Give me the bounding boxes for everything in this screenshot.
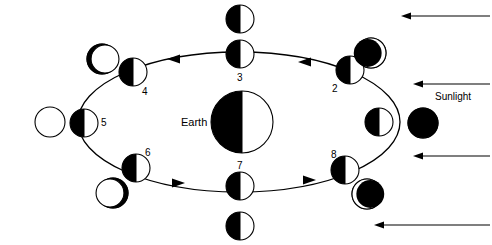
phase-view-last-quarter-dark-half (226, 5, 240, 33)
sunlight-ray-arrowhead-3 (413, 152, 423, 159)
moon-position-5-dark-half (70, 109, 84, 137)
phase-view-full-moon-disc (35, 107, 65, 137)
phase-view-waxing-crescent (352, 179, 384, 209)
moon-position-label-8: 8 (331, 150, 337, 160)
sunlight-ray-arrowhead-4 (374, 221, 384, 228)
orbit-direction-arrow-1 (167, 54, 180, 63)
moon-position-label-7: 7 (237, 161, 243, 171)
phase-view-new-moon (408, 108, 438, 138)
sunlight-ray-2 (413, 80, 490, 87)
moon-position-8-dark-half (331, 156, 345, 184)
moon-position-label-2: 2 (332, 84, 338, 94)
moon-position-label-1: 1 (366, 116, 372, 126)
phase-view-waning-crescent-dark-body (354, 39, 382, 67)
moon-position-3-dark-half (226, 40, 240, 68)
moon-position-3 (226, 40, 254, 68)
sunlight-ray-3 (413, 152, 490, 159)
orbit-direction-arrow-3 (172, 178, 185, 187)
earth-body-dark-half (211, 91, 242, 153)
phase-view-waning-gibbous-light-body (96, 179, 124, 207)
orbit-direction-arrow-2 (298, 57, 311, 66)
phase-view-waxing-gibbous-light-body (91, 45, 119, 73)
phase-view-full-moon (35, 107, 65, 137)
earth-text-label: Earth (181, 117, 207, 128)
phase-view-first-quarter-dark-half (226, 212, 240, 240)
moon-position-6-dark-half (122, 154, 136, 182)
moon-position-label-3: 3 (237, 73, 243, 83)
moon-position-8 (331, 156, 359, 184)
moon-position-label-6: 6 (145, 148, 151, 158)
orbit-direction-arrow-4 (303, 175, 316, 184)
moon-position-4-dark-half (119, 58, 133, 86)
sunlight-ray-arrowhead-2 (413, 80, 423, 87)
phase-view-last-quarter (226, 5, 254, 33)
sunlight-ray-1 (401, 12, 490, 19)
sunlight-ray-arrowhead-1 (401, 12, 411, 19)
sunlight-ray-4 (374, 221, 490, 228)
sunlight-text-label: Sunlight (435, 92, 471, 102)
diagram-canvas (0, 0, 492, 245)
moon-position-2-dark-half (336, 56, 350, 84)
phase-view-waxing-crescent-dark-body (356, 180, 384, 208)
moon-position-7-dark-half (226, 172, 240, 200)
moon-position-4 (119, 58, 147, 86)
moon-position-7 (226, 172, 254, 200)
moon-phases-diagram: Earth12345678Sunlight (0, 0, 492, 245)
moon-position-label-4: 4 (142, 87, 148, 97)
earth-body (211, 91, 273, 153)
phase-view-waxing-gibbous (87, 44, 119, 74)
moon-position-5 (70, 109, 98, 137)
phase-view-waning-gibbous (96, 178, 128, 208)
phase-view-new-moon-dark-fill (408, 108, 438, 138)
phase-view-first-quarter (226, 212, 254, 240)
moon-position-6 (122, 154, 150, 182)
moon-position-label-5: 5 (101, 118, 107, 128)
earth-group (211, 91, 273, 153)
phase-view-waning-crescent (354, 38, 386, 68)
